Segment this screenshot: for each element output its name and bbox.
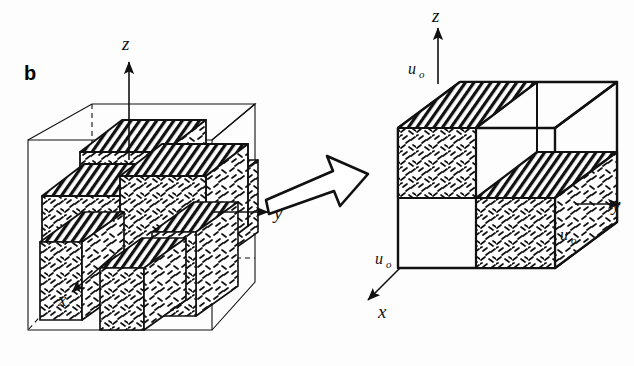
u0-top-sub: o [419,68,425,80]
x-axis-label-right: x [377,301,387,322]
panel-label: b [24,62,36,84]
y-axis-label-right: y [610,194,621,215]
figure-svg: b [0,0,634,366]
u0-left-sub: o [386,258,392,270]
u0-top-base: u [408,60,416,77]
z-axis-label-left: z [121,33,130,54]
u0-left-base: u [375,250,383,267]
figure-panel-b: b [0,0,634,366]
u0-right-sub: o [571,234,577,246]
u0-right-base: u [560,226,568,243]
z-axis-label-right: z [431,5,440,26]
x-axis-label-left: x [57,289,67,310]
